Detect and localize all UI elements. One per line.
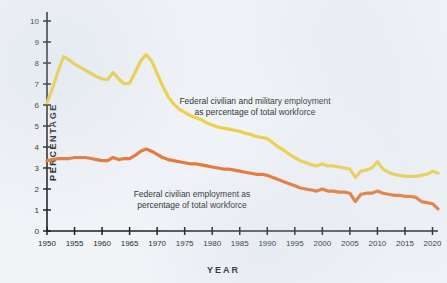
y-tick-label-9: 9 [35, 38, 40, 47]
x-tick-label-1960: 1960 [93, 239, 111, 248]
x-tick-label-1990: 1990 [258, 239, 276, 248]
y-tick-label-6: 6 [35, 101, 40, 110]
y-tick-label-10: 10 [30, 17, 39, 26]
x-tick-label-2000: 2000 [313, 239, 331, 248]
y-axis: 012345678910 [30, 12, 51, 236]
y-tick-label-5: 5 [35, 122, 40, 131]
x-tick-label-1950: 1950 [38, 239, 56, 248]
y-tick-label-4: 4 [35, 143, 40, 152]
x-tick-label-1980: 1980 [203, 239, 221, 248]
x-tick-label-1955: 1955 [66, 239, 84, 248]
x-tick-label-1995: 1995 [286, 239, 304, 248]
x-tick-label-2005: 2005 [341, 239, 359, 248]
annotation-federal-civilian: Federal civilian employment aspercentage… [134, 189, 251, 210]
y-tick-label-8: 8 [35, 59, 40, 68]
y-tick-label-1: 1 [35, 206, 40, 215]
annotation-layer: Federal civilian and military employment… [134, 96, 332, 210]
x-tick-label-1975: 1975 [176, 239, 194, 248]
y-tick-label-7: 7 [35, 80, 40, 89]
x-tick-label-1970: 1970 [148, 239, 166, 248]
y-tick-label-3: 3 [35, 164, 40, 173]
x-tick-label-2010: 2010 [369, 239, 387, 248]
x-tick-label-2020: 2020 [424, 239, 442, 248]
plot-area: 012345678910 195019551960196519701975198… [0, 0, 447, 283]
y-tick-label-2: 2 [35, 185, 40, 194]
x-axis: 1950195519601965197019751980198519901995… [38, 227, 442, 248]
chart-figure: PERCENTAGE YEAR 012345678910 19501955196… [0, 0, 447, 283]
x-tick-label-2015: 2015 [396, 239, 414, 248]
annotation-federal-total: Federal civilian and military employment… [179, 96, 331, 117]
series-layer [47, 55, 438, 209]
x-tick-label-1985: 1985 [231, 239, 249, 248]
x-tick-label-1965: 1965 [121, 239, 139, 248]
y-tick-label-0: 0 [35, 227, 40, 236]
